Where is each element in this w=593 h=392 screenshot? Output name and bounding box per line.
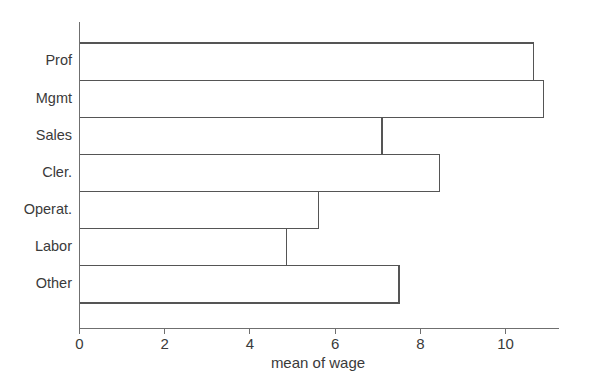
x-axis-title: mean of wage xyxy=(271,354,365,371)
bar-chart: 0246810 ProfMgmtSalesCler.Operat.LaborOt… xyxy=(0,0,593,392)
bar-mgmt xyxy=(80,80,544,117)
bar-other xyxy=(80,266,400,303)
category-label-operat: Operat. xyxy=(24,201,72,217)
category-label-sales: Sales xyxy=(36,127,72,143)
category-label-mgmt: Mgmt xyxy=(36,90,72,106)
x-tick-label-4: 4 xyxy=(246,335,254,352)
x-tick-label-0: 0 xyxy=(75,335,83,352)
bar-cler xyxy=(80,154,440,191)
x-axis-ticks xyxy=(80,329,506,334)
x-tick-label-2: 2 xyxy=(161,335,169,352)
x-tick-label-8: 8 xyxy=(416,335,424,352)
x-tick-label-6: 6 xyxy=(331,335,339,352)
x-axis-tick-labels: 0246810 xyxy=(75,335,514,352)
category-label-labor: Labor xyxy=(35,238,72,254)
bar-prof xyxy=(80,43,534,80)
bar-labor xyxy=(80,229,287,266)
category-label-other: Other xyxy=(36,275,72,291)
bar-operat xyxy=(80,192,319,229)
y-axis-category-labels: ProfMgmtSalesCler.Operat.LaborOther xyxy=(24,52,73,291)
bar-sales xyxy=(80,117,383,154)
bars-group xyxy=(80,43,544,303)
category-label-prof: Prof xyxy=(45,52,73,68)
category-label-cler: Cler. xyxy=(42,164,72,180)
chart-canvas: 0246810 ProfMgmtSalesCler.Operat.LaborOt… xyxy=(0,0,593,392)
x-tick-label-10: 10 xyxy=(497,335,514,352)
